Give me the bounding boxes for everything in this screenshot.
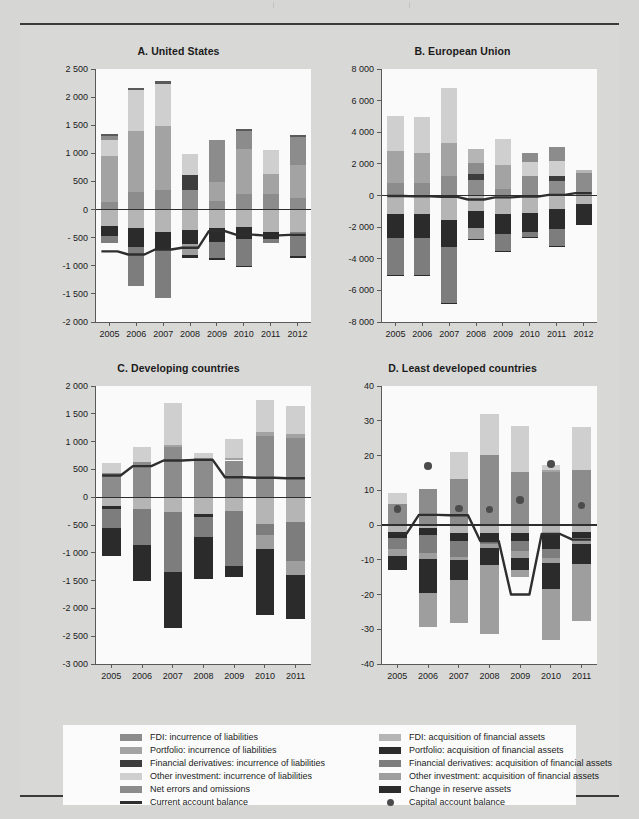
y-tick-label: 4 000 xyxy=(326,127,374,137)
y-tick-label: -8 000 xyxy=(326,317,374,327)
panel-title: B. European Union xyxy=(320,45,605,57)
legend-color-swatch xyxy=(379,786,401,793)
y-tick-label: - 500 xyxy=(40,520,88,530)
capital-account-dot xyxy=(394,505,402,513)
x-axis-line xyxy=(382,322,597,323)
y-tick-label: -40 xyxy=(326,659,374,669)
top-hairline-right xyxy=(409,2,410,8)
legend-item[interactable]: Change in reserve assets xyxy=(379,783,612,795)
plot-area: -40-30-20-100102030402005200620072008200… xyxy=(382,386,597,664)
legend-column-right: FDI: acquisition of financial assetsPort… xyxy=(379,731,612,809)
y-tick-label: -2 000 xyxy=(40,603,88,613)
y-tick-label: 2 000 xyxy=(326,159,374,169)
x-tick-label: 2010 xyxy=(520,329,540,339)
y-tick-label: -3 000 xyxy=(40,659,88,669)
legend-color-swatch xyxy=(120,747,142,754)
x-axis-line xyxy=(382,664,597,665)
y-tick-label: -4 000 xyxy=(326,254,374,264)
x-tick-label: 2007 xyxy=(449,671,469,681)
legend-label: Portfolio: acquisition of financial asse… xyxy=(409,746,564,755)
x-tick-label: 2008 xyxy=(479,671,499,681)
y-tick-label: 2 500 xyxy=(40,64,88,74)
y-tick-label: -1 500 xyxy=(40,576,88,586)
legend-color-swatch xyxy=(120,734,142,741)
legend-item[interactable]: Financial derivatives: incurrence of lia… xyxy=(120,757,325,769)
legend-item[interactable]: Current account balance xyxy=(120,796,325,808)
y-tick-label: 1 000 xyxy=(40,148,88,158)
legend-item[interactable]: Portfolio: incurrence of liabilities xyxy=(120,744,325,756)
legend-item[interactable]: Net errors and omissions xyxy=(120,783,325,795)
legend-color-swatch xyxy=(120,760,142,767)
chart-legend: FDI: incurrence of liabilitiesPortfolio:… xyxy=(63,725,576,805)
top-hairline-left xyxy=(273,2,274,8)
y-tick-label: 2 000 xyxy=(40,381,88,391)
y-tick-label: 1 500 xyxy=(40,120,88,130)
plot-area: -3 000-2 500-2 000-1 500-1 000- 50005001… xyxy=(96,386,311,664)
x-tick-label: 2008 xyxy=(193,671,213,681)
x-axis-line xyxy=(96,322,311,323)
y-tick-label: 40 xyxy=(326,381,374,391)
legend-item[interactable]: Other investment: incurrence of liabilit… xyxy=(120,770,325,782)
x-tick-label: 2005 xyxy=(99,329,119,339)
legend-item[interactable]: FDI: acquisition of financial assets xyxy=(379,731,612,743)
legend-item[interactable]: FDI: incurrence of liabilities xyxy=(120,731,325,743)
x-tick-label: 2009 xyxy=(493,329,513,339)
capital-account-dot xyxy=(547,460,555,468)
legend-label: Current account balance xyxy=(150,798,248,807)
legend-dot-marker xyxy=(379,799,401,806)
y-tick-label: - 500 xyxy=(40,233,88,243)
legend-color-swatch xyxy=(120,786,142,793)
x-tick-label: 2010 xyxy=(255,671,275,681)
x-tick-label: 2009 xyxy=(207,329,227,339)
legend-line-marker xyxy=(120,801,142,804)
capital-account-dot xyxy=(424,462,432,470)
current-account-line xyxy=(382,69,597,322)
legend-label: FDI: incurrence of liabilities xyxy=(150,733,258,742)
x-tick-label: 2012 xyxy=(288,329,308,339)
x-tick-label: 2011 xyxy=(261,329,280,339)
x-tick-label: 2011 xyxy=(286,671,305,681)
legend-label: Financial derivatives: acquisition of fi… xyxy=(409,759,612,768)
y-tick-label: 500 xyxy=(40,464,88,474)
legend-color-swatch xyxy=(379,760,401,767)
y-tick-label: 0 xyxy=(40,205,88,215)
x-tick-label: 2011 xyxy=(547,329,566,339)
y-tick-label: 30 xyxy=(326,416,374,426)
legend-label: Other investment: acquisition of financi… xyxy=(409,772,599,781)
y-tick-label: -30 xyxy=(326,624,374,634)
y-tick-label: 8 000 xyxy=(326,64,374,74)
y-tick-label: 0 xyxy=(326,520,374,530)
y-tick-label: -20 xyxy=(326,590,374,600)
y-tick-label: -2 000 xyxy=(40,317,88,327)
panel-grid: A. United States-2 000-1 500-1 000- 5000… xyxy=(20,25,619,715)
capital-account-dot xyxy=(455,505,463,513)
legend-item[interactable]: Portfolio: acquisition of financial asse… xyxy=(379,744,612,756)
legend-label: Change in reserve assets xyxy=(409,785,511,794)
legend-item[interactable]: Financial derivatives: acquisition of fi… xyxy=(379,757,612,769)
x-tick-label: 2006 xyxy=(418,671,438,681)
legend-color-swatch xyxy=(120,773,142,780)
legend-dot xyxy=(387,799,394,806)
x-tick-label: 2006 xyxy=(412,329,432,339)
x-tick-label: 2010 xyxy=(234,329,254,339)
legend-item[interactable]: Capital account balance xyxy=(379,796,612,808)
x-tick-label: 2012 xyxy=(574,329,594,339)
x-axis-line xyxy=(96,664,311,665)
panel-title: C. Developing countries xyxy=(36,362,321,374)
legend-color-swatch xyxy=(379,734,401,741)
legend-item[interactable]: Other investment: acquisition of financi… xyxy=(379,770,612,782)
x-tick-label: 2009 xyxy=(510,671,530,681)
y-tick-label: 6 000 xyxy=(326,96,374,106)
y-tick-label: -2 000 xyxy=(326,222,374,232)
y-tick-label: 0 xyxy=(40,492,88,502)
legend-label: FDI: acquisition of financial assets xyxy=(409,733,545,742)
y-tick-label: 1 500 xyxy=(40,409,88,419)
current-account-line xyxy=(96,69,311,322)
x-tick-label: 2005 xyxy=(385,329,405,339)
x-tick-label: 2005 xyxy=(387,671,407,681)
plot-area: -8 000-6 000-4 000-2 00002 0004 0006 000… xyxy=(382,69,597,322)
x-tick-label: 2005 xyxy=(101,671,121,681)
legend-label: Net errors and omissions xyxy=(150,785,250,794)
x-tick-label: 2007 xyxy=(163,671,183,681)
y-tick-label: 1 000 xyxy=(40,437,88,447)
